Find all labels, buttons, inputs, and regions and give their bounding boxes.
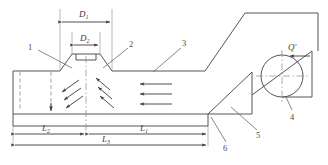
dimension-D2-label: D2 bbox=[79, 33, 90, 44]
dimension-L3: L3 bbox=[15, 134, 206, 145]
callout-4: 4 bbox=[290, 112, 295, 122]
callout-6: 6 bbox=[223, 143, 227, 153]
dimension-D2: D2 bbox=[72, 32, 100, 54]
callout-3: 3 bbox=[182, 38, 186, 48]
dimension-L3-label: L3 bbox=[101, 134, 110, 145]
flow-label-Qprime: Q′ bbox=[288, 42, 310, 56]
Qprime-text: Q′ bbox=[288, 42, 298, 52]
callout-5: 5 bbox=[256, 130, 260, 140]
callout-2: 2 bbox=[129, 39, 133, 49]
flow-arrows-diagonal-left bbox=[62, 80, 83, 108]
inclined-chute bbox=[208, 72, 252, 114]
dimension-L1-label: L1 bbox=[139, 123, 148, 134]
dimension-L2-label: L2 bbox=[41, 123, 50, 134]
roller-centerlines bbox=[256, 50, 308, 103]
engineering-diagram: D1 D2 Q′ bbox=[0, 0, 328, 165]
callout-numbers: 1 2 3 4 5 6 bbox=[28, 38, 295, 153]
dimension-D1-label: D1 bbox=[78, 9, 89, 20]
callout-leaders bbox=[38, 48, 292, 142]
flow-arrows-horizontal bbox=[140, 84, 172, 104]
flow-arrows-diagonal-right bbox=[96, 78, 114, 108]
callout-1: 1 bbox=[28, 42, 32, 52]
upper-right-duct bbox=[245, 13, 318, 51]
diagram-canvas: D1 D2 Q′ bbox=[0, 0, 328, 165]
hood-outline bbox=[13, 13, 245, 114]
left-inlet-dashed bbox=[20, 72, 51, 110]
